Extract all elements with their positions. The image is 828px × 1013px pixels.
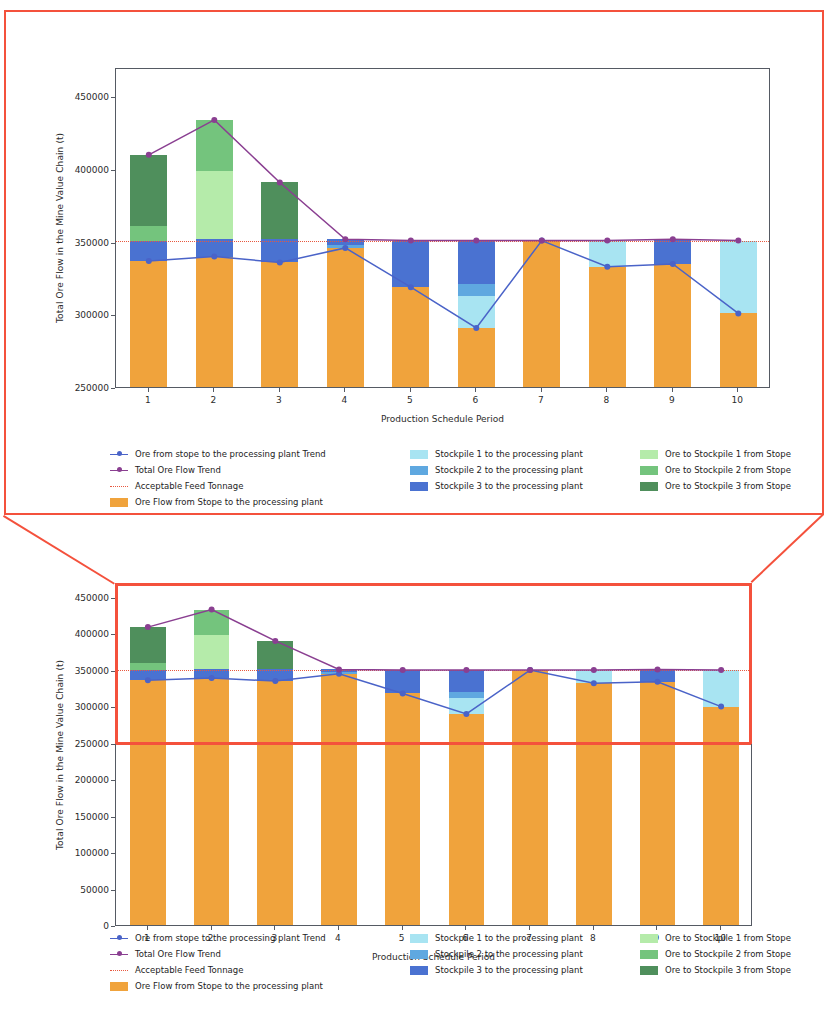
x-tick-label: 7 bbox=[538, 395, 544, 405]
legend-item[interactable]: Ore to Stockpile 2 from Stope bbox=[640, 946, 791, 962]
bar-segment-ore-flow-stope bbox=[449, 714, 485, 926]
legend-color-swatch bbox=[410, 450, 428, 459]
legend-item[interactable]: Stockpile 3 to the processing plant bbox=[410, 962, 583, 978]
y-tick-label: 450000 bbox=[63, 92, 109, 102]
y-tick-mark bbox=[111, 780, 115, 781]
bar-segment-ore-flow-stope bbox=[194, 678, 230, 926]
legend-item[interactable]: Stockpile 3 to the processing plant bbox=[410, 478, 583, 494]
legend-column: Ore to Stockpile 1 from StopeOre to Stoc… bbox=[640, 930, 791, 978]
legend-item[interactable]: Stockpile 1 to the processing plant bbox=[410, 446, 583, 462]
bar-segment-ore-to-stockpile2 bbox=[130, 663, 166, 670]
legend-item[interactable]: Stockpile 2 to the processing plant bbox=[410, 462, 583, 478]
y-tick-label: 250000 bbox=[63, 739, 109, 749]
legend-item[interactable]: Total Ore Flow Trend bbox=[110, 462, 326, 478]
legend-line-marker-swatch bbox=[110, 450, 128, 459]
bar-segment-ore-flow-stope bbox=[576, 683, 612, 926]
legend-item-label: Ore Flow from Stope to the processing pl… bbox=[135, 981, 323, 991]
y-tick-mark bbox=[111, 388, 115, 389]
legend-item[interactable]: Ore to Stockpile 1 from Stope bbox=[640, 930, 791, 946]
legend-color-swatch bbox=[410, 482, 428, 491]
trend-line-stope-to-plant bbox=[148, 670, 721, 714]
legend-color-swatch bbox=[640, 450, 658, 459]
bar-segment-ore-flow-stope bbox=[327, 248, 364, 388]
legend-item[interactable]: Ore from stope to the processing plant T… bbox=[110, 446, 326, 462]
bar-segment-ore-flow-stope bbox=[261, 262, 298, 388]
bar-segment-ore-to-stockpile1 bbox=[196, 171, 233, 239]
legend-line-marker-swatch bbox=[110, 950, 128, 959]
legend-line-marker-swatch bbox=[110, 934, 128, 943]
bar-segment-ore-to-stockpile3 bbox=[261, 182, 298, 239]
x-tick-label: 10 bbox=[732, 395, 743, 405]
bar-segment-ore-flow-stope bbox=[196, 257, 233, 388]
bar-segment-ore-flow-stope bbox=[640, 682, 676, 926]
legend-color-swatch bbox=[640, 934, 658, 943]
legend-item[interactable]: Ore from stope to the processing plant T… bbox=[110, 930, 326, 946]
y-tick-mark bbox=[111, 97, 115, 98]
x-tick-label: 9 bbox=[669, 395, 675, 405]
legend-item-label: Acceptable Feed Tonnage bbox=[135, 481, 243, 491]
legend-item-label: Stockpile 2 to the processing plant bbox=[435, 949, 583, 959]
legend-item[interactable]: Ore Flow from Stope to the processing pl… bbox=[110, 978, 326, 994]
legend-item[interactable]: Stockpile 1 to the processing plant bbox=[410, 930, 583, 946]
y-tick-label: 300000 bbox=[63, 702, 109, 712]
bar-segment-stockpile3-to-plant bbox=[640, 669, 676, 681]
legend-column: Ore from stope to the processing plant T… bbox=[110, 930, 326, 994]
legend-color-swatch bbox=[410, 950, 428, 959]
legend-item-label: Stockpile 2 to the processing plant bbox=[435, 465, 583, 475]
bar-segment-ore-flow-stope bbox=[654, 264, 691, 388]
legend-item[interactable]: Ore to Stockpile 3 from Stope bbox=[640, 962, 791, 978]
bar-segment-stockpile3-to-plant bbox=[458, 241, 495, 285]
y-tick-label: 200000 bbox=[63, 775, 109, 785]
bar-segment-ore-flow-stope bbox=[703, 707, 739, 926]
bar-segment-ore-flow-stope bbox=[130, 680, 166, 926]
figure-page: Total Ore Flow in the Mine Value Chain (… bbox=[0, 0, 828, 1013]
bar-segment-stockpile3-to-plant bbox=[385, 670, 421, 693]
acceptable-feed-tonnage-line bbox=[116, 241, 769, 242]
legend-color-swatch bbox=[640, 482, 658, 491]
legend-item-label: Ore to Stockpile 3 from Stope bbox=[665, 481, 791, 491]
legend-column: Stockpile 1 to the processing plantStock… bbox=[410, 446, 583, 494]
y-tick-label: 450000 bbox=[63, 593, 109, 603]
legend-item[interactable]: Ore to Stockpile 3 from Stope bbox=[640, 478, 791, 494]
bar-segment-ore-to-stockpile3 bbox=[130, 155, 167, 226]
y-tick-mark bbox=[111, 853, 115, 854]
legend-item[interactable]: Ore to Stockpile 1 from Stope bbox=[640, 446, 791, 462]
y-tick-label: 250000 bbox=[63, 383, 109, 393]
legend-item[interactable]: Ore Flow from Stope to the processing pl… bbox=[110, 494, 326, 510]
legend-item-label: Stockpile 1 to the processing plant bbox=[435, 933, 583, 943]
bar-segment-stockpile1-to-plant bbox=[458, 296, 495, 328]
legend-color-swatch bbox=[110, 982, 128, 991]
legend-item-label: Stockpile 3 to the processing plant bbox=[435, 481, 583, 491]
legend-item-label: Ore to Stockpile 3 from Stope bbox=[665, 965, 791, 975]
bar-segment-stockpile3-to-plant bbox=[261, 239, 298, 262]
x-tick-mark bbox=[541, 388, 542, 392]
legend-item[interactable]: Ore to Stockpile 2 from Stope bbox=[640, 462, 791, 478]
legend-item[interactable]: Acceptable Feed Tonnage bbox=[110, 962, 326, 978]
y-tick-mark bbox=[111, 634, 115, 635]
legend-color-swatch bbox=[640, 466, 658, 475]
legend-color-swatch bbox=[640, 950, 658, 959]
legend-column: Ore from stope to the processing plant T… bbox=[110, 446, 326, 510]
legend-item-label: Ore from stope to the processing plant T… bbox=[135, 933, 326, 943]
y-tick-mark bbox=[111, 315, 115, 316]
bar-segment-stockpile1-to-plant bbox=[449, 698, 485, 714]
y-tick-label: 50000 bbox=[63, 885, 109, 895]
bar-segment-stockpile2-to-plant bbox=[458, 284, 495, 296]
legend-column: Stockpile 1 to the processing plantStock… bbox=[410, 930, 583, 978]
bar-segment-stockpile3-to-plant bbox=[130, 241, 167, 261]
bar-segment-stockpile1-to-plant bbox=[703, 670, 739, 706]
legend-color-swatch bbox=[410, 934, 428, 943]
legend-item[interactable]: Acceptable Feed Tonnage bbox=[110, 478, 326, 494]
y-tick-mark bbox=[111, 707, 115, 708]
y-tick-label: 150000 bbox=[63, 812, 109, 822]
x-tick-label: 2 bbox=[210, 395, 216, 405]
bar-segment-stockpile3-to-plant bbox=[392, 241, 429, 288]
legend-item-label: Ore to Stockpile 1 from Stope bbox=[665, 933, 791, 943]
legend-column: Ore to Stockpile 1 from StopeOre to Stoc… bbox=[640, 446, 791, 494]
legend-item[interactable]: Stockpile 2 to the processing plant bbox=[410, 946, 583, 962]
x-tick-label: 8 bbox=[603, 395, 609, 405]
legend-item[interactable]: Total Ore Flow Trend bbox=[110, 946, 326, 962]
x-tick-mark bbox=[410, 388, 411, 392]
y-tick-mark bbox=[111, 671, 115, 672]
y-tick-label: 350000 bbox=[63, 238, 109, 248]
